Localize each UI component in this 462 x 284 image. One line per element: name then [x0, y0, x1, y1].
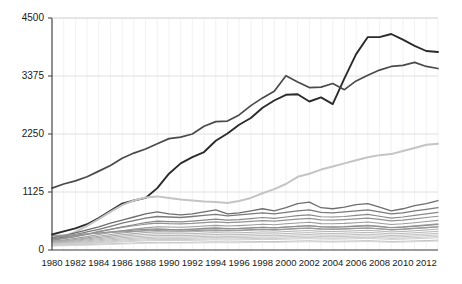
x-tick-label: 1998 — [252, 257, 273, 268]
y-tick-label: 0 — [38, 244, 44, 255]
x-tick-label: 1986 — [112, 257, 133, 268]
x-tick-label: 1988 — [135, 257, 156, 268]
x-tick-label: 1984 — [88, 257, 109, 268]
x-tick-label: 2000 — [275, 257, 296, 268]
x-tick-label: 1982 — [65, 257, 86, 268]
y-axis-ticks: 01125225033754500 — [22, 12, 52, 255]
chart-container: 01125225033754500 1980198219841986198819… — [0, 0, 462, 284]
y-tick-label: 2250 — [22, 128, 45, 139]
y-tick-label: 3375 — [22, 70, 45, 81]
x-axis-ticks: 1980198219841986198819901992199419961998… — [41, 257, 436, 268]
x-tick-label: 2010 — [392, 257, 413, 268]
x-tick-label: 1992 — [182, 257, 203, 268]
x-tick-label: 2006 — [346, 257, 367, 268]
x-tick-label: 1980 — [41, 257, 62, 268]
x-tick-label: 2002 — [299, 257, 320, 268]
x-tick-label: 1994 — [205, 257, 226, 268]
y-tick-label: 1125 — [22, 186, 44, 197]
x-tick-label: 1996 — [229, 257, 250, 268]
line-chart: 01125225033754500 1980198219841986198819… — [0, 0, 462, 284]
x-tick-label: 2008 — [369, 257, 390, 268]
x-tick-label: 2004 — [322, 257, 343, 268]
y-tick-label: 4500 — [22, 12, 45, 23]
x-tick-label: 1990 — [158, 257, 179, 268]
x-tick-label: 2012 — [416, 257, 437, 268]
